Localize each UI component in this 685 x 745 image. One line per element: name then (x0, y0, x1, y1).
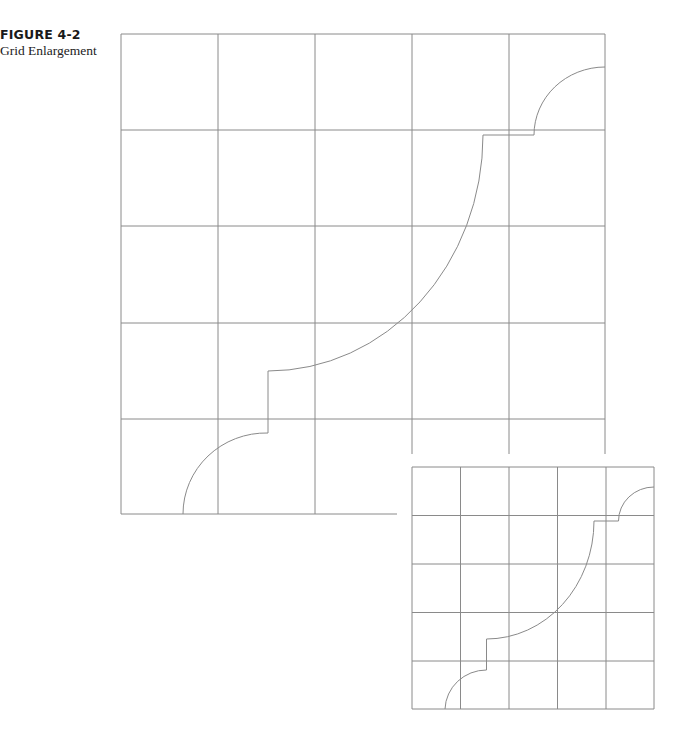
grid-enlargement-diagram (0, 0, 685, 745)
large-molding-profile-curve (183, 67, 605, 514)
small-grid (412, 467, 654, 709)
small-molding-profile-curve (445, 487, 654, 709)
large-grid (121, 34, 605, 514)
